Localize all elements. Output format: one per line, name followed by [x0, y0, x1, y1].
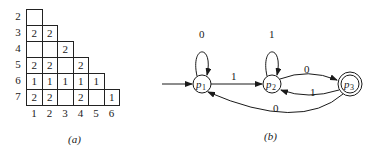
svg-text:p: p [195, 78, 202, 90]
label-p1-p2: 1 [231, 70, 237, 82]
svg-text:1: 1 [202, 83, 206, 92]
label-p3-p1: 0 [273, 102, 279, 114]
loop-p2 [266, 52, 279, 76]
loop-p1 [196, 52, 209, 76]
caption-b: (b) [264, 130, 277, 143]
svg-text:p: p [343, 78, 350, 90]
state-p3: p 3 [338, 72, 362, 96]
label-p2-p3: 0 [304, 63, 310, 75]
svg-text:2: 2 [272, 83, 276, 92]
svg-text:p: p [265, 78, 272, 90]
state-p1: p 1 [193, 75, 211, 93]
svg-text:3: 3 [350, 83, 354, 92]
label-p3-p2: 1 [310, 86, 316, 98]
label-p1-loop: 0 [199, 28, 205, 40]
dfa-diagram: p 1 0 1 p 2 1 0 1 p 3 0 (b) [0, 0, 377, 149]
state-p2: p 2 [263, 75, 281, 93]
label-p2-loop: 1 [269, 28, 275, 40]
